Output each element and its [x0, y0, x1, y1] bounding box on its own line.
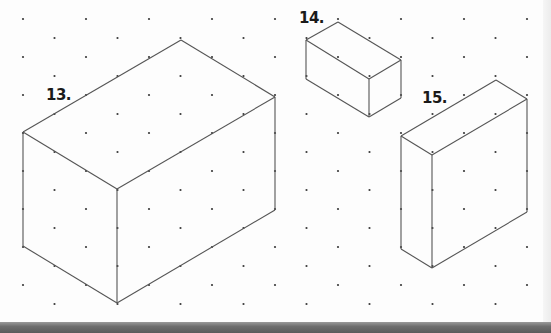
- grid-dot: [179, 189, 181, 191]
- grid-dot: [305, 227, 307, 229]
- grid-dot: [53, 227, 55, 229]
- figure-14-box: [306, 22, 401, 117]
- box-edge: [401, 80, 496, 136]
- grid-dot: [400, 284, 402, 286]
- grid-dot: [494, 113, 496, 115]
- grid-dot: [463, 208, 465, 210]
- grid-dot: [305, 151, 307, 153]
- grid-dot: [368, 37, 370, 39]
- box-edge: [23, 132, 117, 189]
- grid-dot: [337, 94, 339, 96]
- grid-dot: [337, 170, 339, 172]
- box-edge: [117, 210, 275, 303]
- grid-dot: [242, 265, 244, 267]
- box-edge: [306, 40, 369, 79]
- grid-dot: [148, 208, 150, 210]
- grid-dot: [22, 18, 24, 20]
- grid-dot: [211, 208, 213, 210]
- grid-dot: [337, 284, 339, 286]
- grid-dot: [463, 18, 465, 20]
- grid-dot: [85, 208, 87, 210]
- grid-dot: [463, 246, 465, 248]
- grid-dot: [526, 18, 528, 20]
- grid-dot: [337, 56, 339, 58]
- grid-dot: [116, 113, 118, 115]
- grid-dot: [494, 37, 496, 39]
- grid-dot: [274, 246, 276, 248]
- grid-dot: [274, 56, 276, 58]
- grid-dot: [179, 37, 181, 39]
- grid-dot: [431, 37, 433, 39]
- grid-dot: [148, 132, 150, 134]
- grid-dot: [526, 94, 528, 96]
- grid-dot: [368, 303, 370, 305]
- grid-dot: [179, 113, 181, 115]
- grid-dot: [211, 170, 213, 172]
- box-edge: [369, 98, 401, 117]
- grid-dot: [431, 151, 433, 153]
- grid-dot: [211, 284, 213, 286]
- grid-dot: [179, 227, 181, 229]
- grid-dot: [85, 246, 87, 248]
- grid-dot: [526, 56, 528, 58]
- grid-dot: [337, 132, 339, 134]
- grid-dot: [22, 56, 24, 58]
- grid-dot: [116, 37, 118, 39]
- grid-dot: [400, 18, 402, 20]
- box-edge: [432, 212, 527, 268]
- grid-dot: [85, 132, 87, 134]
- grid-dot: [431, 113, 433, 115]
- grid-dot: [494, 303, 496, 305]
- worksheet-page: 13. 14. 15.: [0, 0, 551, 333]
- grid-dot: [274, 18, 276, 20]
- grid-dot: [494, 189, 496, 191]
- box-edge: [496, 80, 527, 99]
- grid-dot: [179, 303, 181, 305]
- grid-dot: [148, 246, 150, 248]
- grid-dot: [463, 132, 465, 134]
- box-edge: [432, 99, 527, 155]
- grid-dot: [242, 37, 244, 39]
- grid-dot: [463, 94, 465, 96]
- grid-dot: [305, 189, 307, 191]
- grid-dot: [148, 18, 150, 20]
- grid-dot: [337, 18, 339, 20]
- grid-dot: [53, 189, 55, 191]
- figure-13-label: 13.: [46, 88, 71, 103]
- grid-dot: [368, 189, 370, 191]
- grid-dot: [179, 75, 181, 77]
- grid-dot: [526, 284, 528, 286]
- box-edge: [401, 249, 432, 268]
- grid-dot: [463, 56, 465, 58]
- grid-dot: [463, 170, 465, 172]
- grid-dot: [526, 246, 528, 248]
- figure-14-label: 14.: [299, 11, 324, 26]
- box-edge: [369, 60, 401, 79]
- grid-dot: [368, 227, 370, 229]
- grid-dot: [242, 303, 244, 305]
- grid-dot: [431, 303, 433, 305]
- grid-dot: [242, 189, 244, 191]
- figure-15-label: 15.: [422, 91, 447, 106]
- grid-dot: [85, 56, 87, 58]
- grid-dot: [305, 113, 307, 115]
- grid-dot: [305, 303, 307, 305]
- grid-dot: [53, 75, 55, 77]
- grid-dot: [116, 151, 118, 153]
- grid-dot: [463, 284, 465, 286]
- grid-dot: [22, 284, 24, 286]
- grid-dot: [85, 18, 87, 20]
- grid-dot: [400, 56, 402, 58]
- grid-dot: [368, 75, 370, 77]
- grid-dot: [53, 303, 55, 305]
- grid-dot: [337, 246, 339, 248]
- box-edge: [181, 40, 275, 97]
- box-edge: [401, 136, 432, 155]
- grid-dot: [274, 94, 276, 96]
- grid-dot: [305, 265, 307, 267]
- grid-dot: [494, 151, 496, 153]
- grid-dot: [242, 75, 244, 77]
- grid-dot: [494, 227, 496, 229]
- grid-dot: [431, 75, 433, 77]
- grid-dot: [368, 151, 370, 153]
